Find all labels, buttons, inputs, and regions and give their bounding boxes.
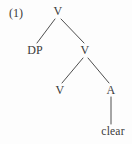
- figure-canvas: (1) V DP V V A clear: [0, 0, 132, 144]
- edge-root-vmid: [61, 19, 84, 43]
- edge-vmid-vleaf: [62, 58, 83, 83]
- edge-vmid-a: [88, 58, 109, 83]
- tree-node-v-leaf: V: [56, 84, 65, 96]
- example-number-label: (1): [9, 7, 23, 19]
- tree-node-v-root: V: [54, 5, 63, 17]
- tree-node-dp: DP: [27, 44, 43, 56]
- tree-node-a: A: [107, 84, 116, 96]
- edge-root-dp: [37, 19, 55, 43]
- tree-node-v-mid: V: [81, 44, 90, 56]
- tree-edges: [0, 0, 132, 144]
- tree-leaf-clear: clear: [101, 125, 124, 137]
